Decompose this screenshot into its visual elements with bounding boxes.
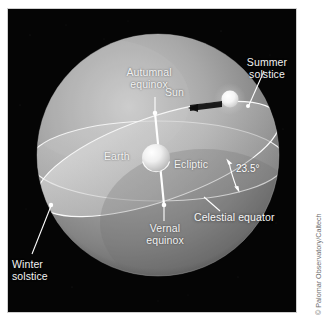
image-credit: © Palomar Observatory/Caltech — [315, 175, 323, 315]
celestial-sphere-illustration — [8, 9, 296, 312]
autumnal-equinox-point — [153, 111, 158, 116]
vernal-equinox-point — [162, 203, 167, 208]
earth-body — [142, 144, 170, 172]
figure-root: Summer solstice Autumnal equinox Sun Ear… — [0, 0, 326, 321]
celestial-sphere-photo: Summer solstice Autumnal equinox Sun Ear… — [8, 9, 296, 312]
sun-body — [214, 83, 246, 115]
credit-area: © Palomar Observatory/Caltech — [312, 163, 326, 313]
